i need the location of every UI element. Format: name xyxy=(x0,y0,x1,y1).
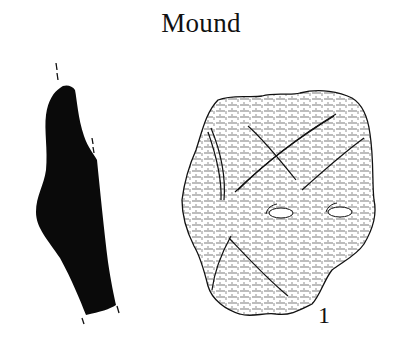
sherd-outline xyxy=(182,91,375,316)
figure-number: 1 xyxy=(318,302,330,329)
sherd-exterior-drawing xyxy=(0,0,402,342)
